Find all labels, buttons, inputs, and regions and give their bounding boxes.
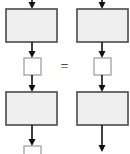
arrow-block2-to-square2: [29, 125, 36, 146]
state-square-1[interactable]: [94, 58, 111, 75]
arrow-square-to-block2-head: [99, 85, 106, 92]
arrow-in-top: [99, 0, 106, 9]
process-block-2[interactable]: [6, 92, 57, 125]
arrow-block2-to-square2-head: [29, 139, 36, 146]
arrow-block1-to-square: [99, 42, 106, 58]
arrow-square-to-block2: [99, 75, 106, 92]
state-square-1[interactable]: [24, 58, 41, 75]
arrow-block1-to-square-head: [99, 51, 106, 58]
arrow-block1-to-square: [29, 42, 36, 58]
arrow-square-to-block2: [29, 75, 36, 92]
right-column: [77, 0, 128, 152]
arrow-block1-to-square-head: [29, 51, 36, 58]
state-square-2-clipped[interactable]: [24, 146, 41, 154]
arrow-in-top-head: [29, 2, 36, 9]
arrow-square-to-block2-head: [29, 85, 36, 92]
process-block-1[interactable]: [6, 9, 57, 42]
flowchart-svg: [0, 0, 130, 154]
left-column: [6, 0, 57, 154]
arrow-in-top-head: [99, 2, 106, 9]
arrow-block2-out: [99, 125, 106, 152]
process-block-1[interactable]: [77, 9, 128, 42]
process-block-2[interactable]: [77, 92, 128, 125]
diagram-canvas: =: [0, 0, 130, 154]
arrow-in-top: [29, 0, 36, 9]
equals-operator: =: [61, 60, 69, 74]
arrow-block2-out-head: [99, 145, 106, 152]
